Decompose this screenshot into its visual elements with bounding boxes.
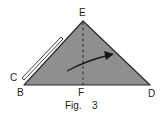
label-e: E (79, 7, 86, 18)
fold-diagram: E C B F D Fig. 3 (0, 0, 164, 118)
triangle-bed (24, 21, 150, 85)
caption-prefix: Fig. (65, 100, 82, 111)
label-d: D (148, 88, 155, 99)
caption-number: 3 (92, 100, 98, 111)
label-b: B (17, 87, 24, 98)
label-f: F (78, 87, 84, 98)
label-c: C (10, 72, 17, 83)
